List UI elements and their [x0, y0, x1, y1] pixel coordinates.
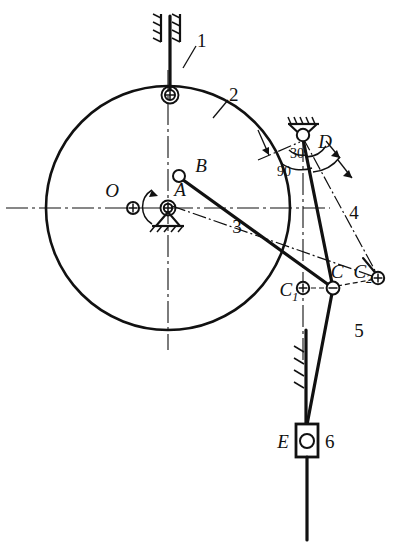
- joint-top-pivot: [162, 87, 179, 104]
- link-5-bar: [306, 288, 333, 430]
- label-point-C1-sub: 1: [292, 289, 298, 304]
- joint-D-pin: [297, 129, 309, 141]
- label-point-C1-base: C: [279, 279, 292, 300]
- mechanism-diagram-canvas: 1 2 3 4 5 6 O A B D C E C1 C2 30 90: [0, 0, 407, 547]
- label-point-D: D: [317, 131, 332, 152]
- joint-C1-marker: [297, 282, 309, 294]
- joint-C-pin: [327, 282, 340, 295]
- label-link-5: 5: [354, 320, 364, 341]
- label-link-2: 2: [229, 84, 239, 105]
- label-point-C2-sub: 2: [366, 271, 373, 286]
- link-3-bar: [179, 177, 333, 288]
- label-link-4: 4: [349, 202, 359, 223]
- label-point-O: O: [105, 180, 119, 201]
- point-O-marker: [127, 202, 139, 214]
- label-point-C1: C1: [279, 279, 298, 304]
- label-link-3: 3: [232, 216, 242, 237]
- rotation-arrow-A: [143, 190, 158, 224]
- label-point-C2-base: C: [353, 261, 366, 282]
- slider-guide-frame: [294, 330, 306, 430]
- label-point-E: E: [276, 431, 289, 452]
- mechanism-svg: 1 2 3 4 5 6 O A B D C E C1 C2 30 90: [0, 0, 407, 547]
- label-point-A: A: [172, 179, 186, 200]
- label-leaders: [183, 46, 228, 118]
- link-4-bar: [303, 139, 333, 288]
- label-link-1: 1: [197, 30, 207, 51]
- label-point-C: C: [331, 261, 344, 282]
- text-labels: 1 2 3 4 5 6 O A B D C E C1 C2 30 90: [105, 30, 373, 452]
- top-ground-support: [153, 14, 180, 42]
- joint-A-fixed-support: [150, 201, 184, 233]
- label-point-B: B: [195, 155, 207, 176]
- label-angle-90: 90: [277, 164, 291, 179]
- label-angle-30: 30: [290, 146, 304, 161]
- label-link-6: 6: [325, 431, 335, 452]
- slider-block-6: [296, 424, 318, 457]
- joint-C2-marker: [372, 272, 384, 284]
